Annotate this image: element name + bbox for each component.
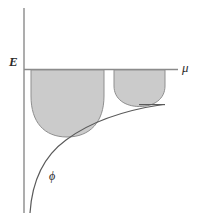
- energy-band-diagram-figure: E μ ϕ: [0, 0, 201, 213]
- figure-canvas: [0, 0, 201, 213]
- energy-axis-label: E: [9, 55, 18, 68]
- chemical-potential-label: μ: [182, 61, 189, 74]
- work-function-label: ϕ: [49, 170, 55, 182]
- left-filled-band-region: [31, 70, 104, 137]
- right-filled-band-region: [114, 70, 165, 107]
